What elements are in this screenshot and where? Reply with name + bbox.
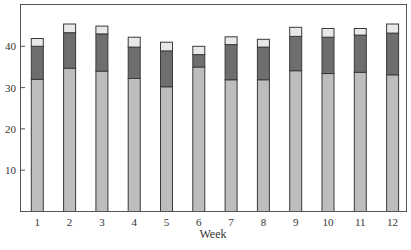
bar-segment-week-12-series-1 [387,75,399,212]
bar-segment-week-11-series-3 [354,29,366,36]
bar-segment-week-7-series-2 [225,45,237,80]
bar-segment-week-9-series-3 [290,27,302,36]
y-tick-label: 10 [5,164,17,176]
bar-segment-week-8-series-2 [257,47,269,80]
bar-segment-week-11-series-1 [354,72,366,211]
y-tick-label: 30 [5,82,17,94]
x-tick-label: 4 [131,216,137,228]
bar-segment-week-12-series-2 [387,33,399,75]
stacked-bar-chart: 10203040 123456789101112 Week [0,0,411,250]
y-axis: 10203040 [5,40,25,176]
x-tick-label: 11 [355,216,366,228]
x-tick-label: 9 [293,216,299,228]
bar-segment-week-4-series-1 [128,79,140,212]
bar-segment-week-7-series-1 [225,80,237,212]
bar-segment-week-10-series-1 [322,74,334,212]
plot-frame [21,5,407,212]
x-tick-label: 2 [67,216,73,228]
bars-group [31,24,398,212]
bar-segment-week-1-series-1 [31,79,43,211]
bar-segment-week-10-series-2 [322,37,334,73]
y-tick-label: 20 [5,123,17,135]
bar-segment-week-1-series-2 [31,46,43,79]
x-tick-label: 12 [387,216,398,228]
bar-segment-week-3-series-1 [96,71,108,211]
bar-segment-week-3-series-2 [96,34,108,71]
x-axis-title: Week [199,227,226,241]
bar-segment-week-11-series-2 [354,35,366,72]
bar-segment-week-9-series-1 [290,71,302,212]
bar-segment-week-6-series-1 [193,67,205,212]
x-tick-label: 5 [164,216,170,228]
bar-segment-week-9-series-2 [290,36,302,70]
bar-segment-week-3-series-3 [96,26,108,34]
bar-segment-week-6-series-3 [193,46,205,54]
y-tick-label: 40 [5,40,17,52]
bar-segment-week-5-series-1 [161,87,173,212]
bar-segment-week-8-series-1 [257,80,269,212]
x-tick-label: 3 [99,216,105,228]
x-tick-label: 8 [261,216,267,228]
x-tick-label: 7 [228,216,234,228]
bar-segment-week-6-series-2 [193,55,205,67]
bar-segment-week-12-series-3 [387,24,399,33]
bar-segment-week-2-series-1 [64,68,76,211]
bar-segment-week-8-series-3 [257,39,269,47]
bar-segment-week-10-series-3 [322,29,334,38]
bar-segment-week-2-series-3 [64,24,76,33]
bar-segment-week-5-series-2 [161,51,173,87]
bar-segment-week-7-series-3 [225,37,237,45]
x-tick-label: 1 [35,216,41,228]
bar-segment-week-5-series-3 [161,42,173,51]
bar-segment-week-4-series-3 [128,37,140,47]
bar-segment-week-2-series-2 [64,33,76,68]
x-tick-label: 10 [323,216,335,228]
bar-segment-week-4-series-2 [128,47,140,78]
bar-segment-week-1-series-3 [31,39,43,47]
